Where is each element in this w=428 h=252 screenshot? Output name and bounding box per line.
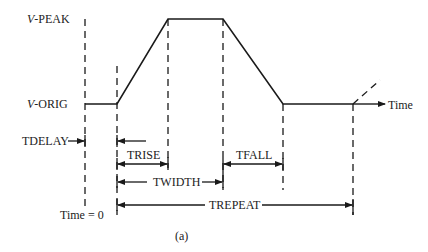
guide-lines — [85, 19, 380, 215]
v-orig-label: V-ORIG — [27, 98, 68, 110]
tdelay-label: TDELAY — [22, 135, 69, 147]
trise-label: TRISE — [127, 149, 160, 161]
twidth-label: TWIDTH — [151, 176, 202, 188]
next-pulse-rise — [353, 80, 380, 104]
waveform-line — [85, 19, 353, 104]
figure-caption: (a) — [175, 230, 188, 242]
tfall-label: TFALL — [236, 149, 272, 161]
v-peak-label: V-PEAK — [27, 13, 70, 25]
trepeat-label: TREPEAT — [207, 199, 262, 211]
time-axis-label: Time — [388, 99, 413, 111]
pulse-diagram: V-PEAK V-ORIG Time TDELAY TRISE TWIDTH T… — [0, 0, 428, 252]
time-zero-label: Time = 0 — [60, 209, 104, 221]
